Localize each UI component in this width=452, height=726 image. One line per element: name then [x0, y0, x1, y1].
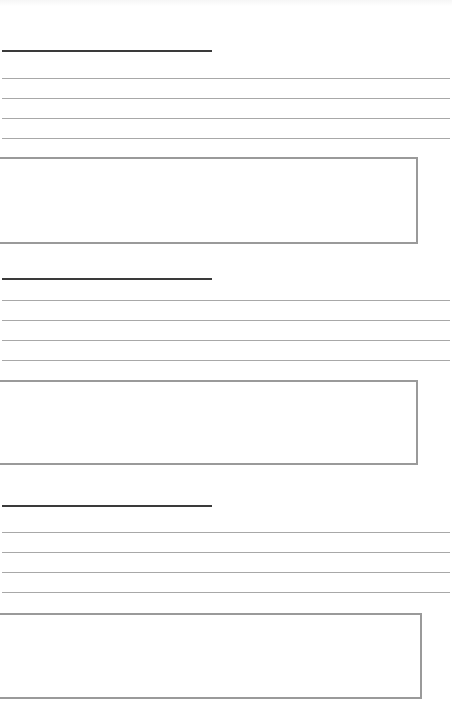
section-3-answer-box: [0, 613, 422, 699]
section-1-line-4-field[interactable]: [2, 120, 450, 138]
section-2-answer-box: [0, 380, 418, 465]
section-2-line-2-field[interactable]: [2, 302, 450, 320]
section-1-line-3-field[interactable]: [2, 100, 450, 118]
section-1-heading-line: [2, 50, 212, 52]
ruled-line: [2, 360, 450, 361]
ruled-line: [2, 98, 450, 99]
ruled-line: [2, 320, 450, 321]
section-3-heading-line: [2, 505, 212, 507]
ruled-line: [2, 118, 450, 119]
section-2-line-4-field[interactable]: [2, 342, 450, 360]
ruled-line: [2, 300, 450, 301]
ruled-line: [2, 572, 450, 573]
section-1-answer-box: [0, 157, 418, 244]
ruled-line: [2, 592, 450, 593]
section-2-answer-textarea[interactable]: [0, 382, 416, 463]
section-3-line-3-field[interactable]: [2, 554, 450, 572]
section-1-answer-textarea[interactable]: [0, 159, 416, 242]
section-2-line-1-field[interactable]: [2, 282, 450, 300]
section-2-heading-field[interactable]: [2, 260, 212, 278]
ruled-line: [2, 340, 450, 341]
section-1-line-1-field[interactable]: [2, 60, 450, 78]
section-3-line-4-field[interactable]: [2, 574, 450, 592]
section-1-heading-field[interactable]: [2, 32, 212, 50]
ruled-line: [2, 78, 450, 79]
section-2-heading-line: [2, 278, 212, 280]
section-3-heading-field[interactable]: [2, 487, 212, 505]
ruled-line: [2, 552, 450, 553]
cut-off-header-strip: [0, 0, 452, 6]
section-2-line-3-field[interactable]: [2, 322, 450, 340]
section-3-line-1-field[interactable]: [2, 514, 450, 532]
ruled-line: [2, 532, 450, 533]
ruled-line: [2, 138, 450, 139]
section-3-line-2-field[interactable]: [2, 534, 450, 552]
section-3-answer-textarea[interactable]: [0, 615, 420, 697]
section-1-line-2-field[interactable]: [2, 80, 450, 98]
